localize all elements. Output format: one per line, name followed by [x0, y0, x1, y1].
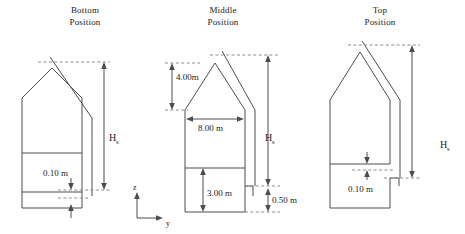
- house-roof-top: [330, 52, 390, 100]
- height-sub-bottom: s: [116, 138, 119, 145]
- probe-rod-bottom: [50, 57, 92, 118]
- height-sub-middle: s: [272, 138, 275, 145]
- dim-arrowhead-gap-up-top: [364, 170, 370, 177]
- axis-arrowhead-z: [134, 192, 140, 199]
- coordinate-indicator: z y: [125, 180, 181, 234]
- dim-arrowhead-gap-down-bottom: [68, 183, 74, 190]
- figure-top-position: H s 0.10 m: [300, 0, 465, 234]
- house-roof-bottom: [22, 68, 82, 98]
- dim-arrowhead-hs-top-middle: [265, 55, 271, 62]
- dim-arrowhead-wall-bottom-middle: [200, 205, 206, 212]
- dim-arrowhead-hs-bottom-top: [409, 171, 415, 178]
- dim-arrowhead-width-right-middle: [237, 116, 244, 122]
- base-step-middle: [245, 186, 253, 196]
- probe-rod-top: [362, 41, 400, 100]
- width-label-middle: 8.00 m: [198, 123, 223, 133]
- base-step-bottom: [22, 192, 82, 208]
- dim-arrowhead-gap-top-middle: [265, 188, 271, 195]
- gap-label-middle: 0.50 m: [272, 195, 297, 205]
- axis-label-y: y: [166, 219, 170, 228]
- dim-arrowhead-roof-bottom-middle: [169, 103, 175, 110]
- dim-arrowhead-wall-top-middle: [200, 168, 206, 175]
- gap-label-bottom: 0.10 m: [43, 168, 68, 178]
- dim-arrowhead-hs-bottom-bottom: [101, 183, 107, 190]
- house-roof-middle: [185, 63, 245, 110]
- probe-rod-middle: [222, 51, 255, 110]
- dim-arrowhead-gap-down-top: [364, 157, 370, 164]
- wall-height-label-middle: 3.00 m: [207, 188, 232, 198]
- height-sub-top: s: [447, 145, 450, 152]
- dim-arrowhead-roof-top-middle: [169, 63, 175, 70]
- dim-arrowhead-hs-top-bottom: [101, 62, 107, 69]
- dim-arrowhead-hs-top-top: [409, 45, 415, 52]
- axis-label-z: z: [133, 183, 137, 192]
- dim-arrowhead-hs-bottom-middle: [265, 179, 271, 186]
- house-body-top: [330, 100, 390, 164]
- gap-label-top: 0.10 m: [348, 184, 373, 194]
- diagram-canvas: Bottom Position: [0, 0, 465, 234]
- base-step-right-top: [390, 178, 399, 186]
- roof-height-label-middle: 4.00m: [176, 72, 199, 82]
- axis-arrowhead-y: [156, 215, 163, 221]
- dim-arrowhead-gap-bottom-middle: [265, 205, 271, 212]
- dim-arrowhead-width-left-middle: [186, 116, 193, 122]
